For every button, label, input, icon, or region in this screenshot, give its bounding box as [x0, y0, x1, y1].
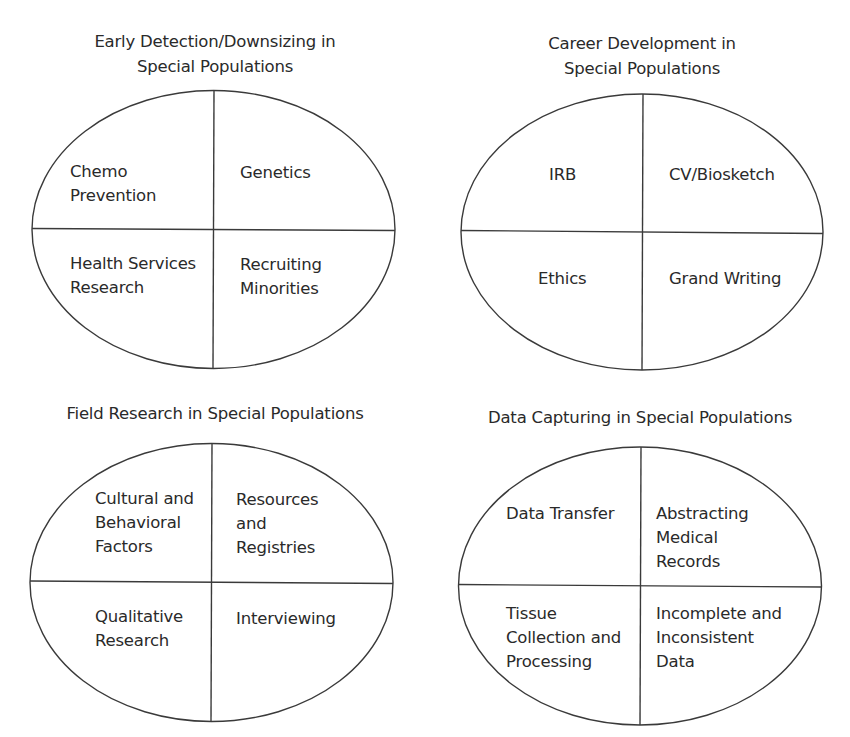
ellipse-career-development [461, 94, 823, 370]
quadrant-genetics: Genetics [240, 161, 311, 185]
quadrant-qualitative-research: Qualitative Research [95, 605, 183, 653]
quadrant-chemo-prevention: Chemo Prevention [70, 160, 156, 208]
quadrant-cultural-behavioral-factors: Cultural and Behavioral Factors [95, 487, 194, 559]
quadrant-grand-writing: Grand Writing [669, 267, 781, 291]
quadrant-data-transfer: Data Transfer [506, 502, 614, 526]
quadrant-recruiting-minorities: Recruiting Minorities [240, 253, 322, 301]
quadrant-resources-registries: Resources and Registries [236, 488, 318, 560]
panel-title-field-research: Field Research in Special Populations [40, 401, 390, 426]
quadrant-incomplete-inconsistent-data: Incomplete and Inconsistent Data [656, 602, 782, 674]
quadrant-abstracting-medical-records: Abstracting Medical Records [656, 502, 749, 574]
quadrant-ethics: Ethics [538, 267, 586, 291]
ellipse-data-capturing [459, 447, 822, 725]
quadrant-cv-biosketch: CV/Biosketch [669, 163, 775, 187]
quadrant-interviewing: Interviewing [236, 607, 336, 631]
quadrant-tissue-collection-processing: Tissue Collection and Processing [506, 602, 621, 674]
ellipse-early-detection [32, 91, 395, 369]
panel-title-career-development: Career Development in Special Population… [490, 31, 794, 81]
panel-title-data-capturing: Data Capturing in Special Populations [465, 405, 815, 430]
panel-title-early-detection: Early Detection/Downsizing in Special Po… [63, 29, 367, 79]
ellipse-field-research [30, 444, 393, 722]
quadrant-health-services-research: Health Services Research [70, 252, 196, 300]
quadrant-irb: IRB [549, 163, 576, 187]
